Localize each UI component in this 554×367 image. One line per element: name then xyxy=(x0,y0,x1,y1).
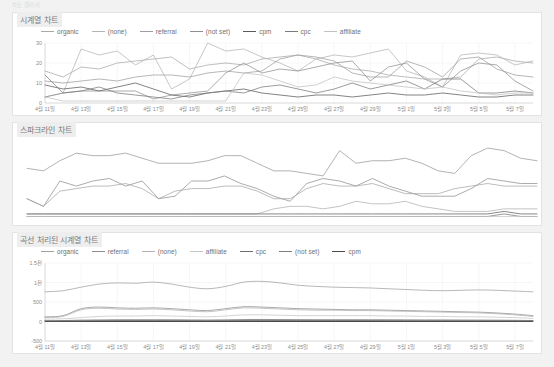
timeseries-plot-area: 01020304월 11일4월 13일4월 15일4월 17일4월 19일4월 … xyxy=(13,39,543,117)
legend-swatch-icon xyxy=(243,31,256,32)
curved-timeseries-plot-area: -50005001천1.5천4월 11일4월 13일4월 15일4월 17일4월… xyxy=(13,259,543,355)
series-line-cpm xyxy=(45,83,533,97)
x-axis-tick-label: 5월 1일 xyxy=(398,343,416,350)
x-axis-tick-label: 5월 5일 xyxy=(470,343,488,350)
legend-swatch-icon xyxy=(332,251,345,252)
page-caption: 차트 갤러리 xyxy=(12,1,40,9)
legend-swatch-icon xyxy=(142,251,155,252)
sparkline-series-none xyxy=(27,176,537,206)
x-axis-tick-label: 4월 23일 xyxy=(252,343,273,350)
legend-swatch-icon xyxy=(190,251,203,252)
legend-label: cpc xyxy=(301,28,311,35)
y-axis-tick-label: 1천 xyxy=(34,279,42,286)
x-axis-tick-label: 4월 15일 xyxy=(107,105,128,112)
legend-item-notset[interactable]: (not set) xyxy=(279,248,319,255)
x-axis-tick-label: 4월 13일 xyxy=(71,343,92,350)
sparkline-series-referral xyxy=(27,184,537,207)
x-axis-tick-label: 4월 11일 xyxy=(35,105,55,112)
x-axis-tick-label: 4월 19일 xyxy=(179,343,200,350)
legend-swatch-icon xyxy=(92,251,105,252)
curved-timeseries-chart-title: 곡선 처리된 시계열 차트 xyxy=(17,232,102,247)
x-axis-tick-label: 5월 3일 xyxy=(434,343,452,350)
sparkline-series-organic xyxy=(27,148,537,176)
x-axis-tick-label: 4월 23일 xyxy=(252,105,273,112)
legend-swatch-icon xyxy=(324,31,337,32)
x-axis-tick-label: 4월 29일 xyxy=(360,343,381,350)
series-line-organic xyxy=(45,281,533,292)
sparkline-chart-card: 스파크라인 차트 xyxy=(12,122,542,226)
legend-swatch-icon xyxy=(92,31,105,32)
legend-item-organic[interactable]: organic xyxy=(41,28,79,35)
legend-label: organic xyxy=(57,248,79,255)
legend-swatch-icon xyxy=(41,251,54,252)
sparkline-series-cpc xyxy=(27,214,537,217)
legend-label: (not set) xyxy=(295,248,319,255)
legend-item-cpm[interactable]: cpm xyxy=(332,248,360,255)
legend-label: referral xyxy=(156,28,177,35)
legend-swatch-icon xyxy=(285,31,298,32)
x-axis-tick-label: 4월 17일 xyxy=(143,105,164,112)
legend-item-affiliate[interactable]: affiliate xyxy=(324,28,361,35)
x-axis-tick-label: 4월 11일 xyxy=(35,343,55,350)
x-axis-tick-label: 4월 27일 xyxy=(324,105,345,112)
legend-label: affiliate xyxy=(340,28,361,35)
curved-timeseries-chart-card: 곡선 처리된 시계열 차트 organicreferral(none)affil… xyxy=(12,232,542,354)
sparkline-plot-area xyxy=(13,137,543,225)
legend-item-notset[interactable]: (not set) xyxy=(190,28,230,35)
legend-item-cpc[interactable]: cpc xyxy=(285,28,311,35)
legend-label: cpc xyxy=(256,248,266,255)
legend-item-cpc[interactable]: cpc xyxy=(240,248,266,255)
legend-label: referral xyxy=(108,248,129,255)
x-axis-tick-label: 4월 27일 xyxy=(324,343,345,350)
legend-swatch-icon xyxy=(190,31,203,32)
x-axis-tick-label: 5월 1일 xyxy=(398,105,416,112)
x-axis-tick-label: 4월 21일 xyxy=(215,343,236,350)
legend-item-referral[interactable]: referral xyxy=(92,248,129,255)
series-line-affiliate xyxy=(45,315,533,319)
y-axis-tick-label: 500 xyxy=(33,299,42,305)
legend-swatch-icon xyxy=(279,251,292,252)
y-axis-tick-label: 30 xyxy=(36,40,42,46)
chart-gallery-page: 차트 갤러리 시계열 차트 organic(none)referral(not … xyxy=(0,0,554,367)
legend-item-organic[interactable]: organic xyxy=(41,248,79,255)
y-axis-tick-label: 0 xyxy=(39,319,42,325)
x-axis-tick-label: 5월 7일 xyxy=(506,105,524,112)
x-axis-tick-label: 5월 3일 xyxy=(434,105,452,112)
y-axis-tick-label: 1.5천 xyxy=(30,259,43,266)
y-axis-tick-label: 10 xyxy=(36,80,42,86)
x-axis-tick-label: 4월 25일 xyxy=(288,105,309,112)
legend-label: cpm xyxy=(348,248,360,255)
timeseries-chart-card: 시계열 차트 organic(none)referral(not set)cpm… xyxy=(12,12,542,116)
sparkline-series-cpm xyxy=(27,211,537,214)
x-axis-tick-label: 4월 25일 xyxy=(288,343,309,350)
x-axis-tick-label: 5월 7일 xyxy=(506,343,524,350)
x-axis-tick-label: 4월 17일 xyxy=(143,343,164,350)
legend-label: cpm xyxy=(259,28,271,35)
x-axis-tick-label: 4월 29일 xyxy=(360,105,381,112)
legend-swatch-icon xyxy=(41,31,54,32)
y-axis-tick-label: 20 xyxy=(36,60,42,66)
sparkline-chart-title: 스파크라인 차트 xyxy=(17,122,76,137)
legend-label: (none) xyxy=(158,248,177,255)
x-axis-tick-label: 4월 13일 xyxy=(71,105,92,112)
legend-label: organic xyxy=(57,28,79,35)
curved-timeseries-legend[interactable]: organicreferral(none)affiliatecpc(not se… xyxy=(41,248,361,255)
x-axis-tick-label: 4월 15일 xyxy=(107,343,128,350)
legend-item-affiliate[interactable]: affiliate xyxy=(190,248,227,255)
legend-swatch-icon xyxy=(240,251,253,252)
timeseries-legend[interactable]: organic(none)referral(not set)cpmcpcaffi… xyxy=(41,28,361,35)
legend-item-none[interactable]: (none) xyxy=(92,28,127,35)
x-axis-tick-label: 4월 21일 xyxy=(215,105,236,112)
x-axis-tick-label: 4월 19일 xyxy=(179,105,200,112)
legend-item-none[interactable]: (none) xyxy=(142,248,177,255)
legend-item-cpm[interactable]: cpm xyxy=(243,28,271,35)
legend-item-referral[interactable]: referral xyxy=(140,28,177,35)
timeseries-chart-title: 시계열 차트 xyxy=(17,12,62,27)
legend-label: (none) xyxy=(108,28,127,35)
sparkline-series-notset xyxy=(27,201,537,214)
legend-swatch-icon xyxy=(140,31,153,32)
legend-label: affiliate xyxy=(206,248,227,255)
x-axis-tick-label: 5월 5일 xyxy=(470,105,488,112)
legend-label: (not set) xyxy=(206,28,230,35)
